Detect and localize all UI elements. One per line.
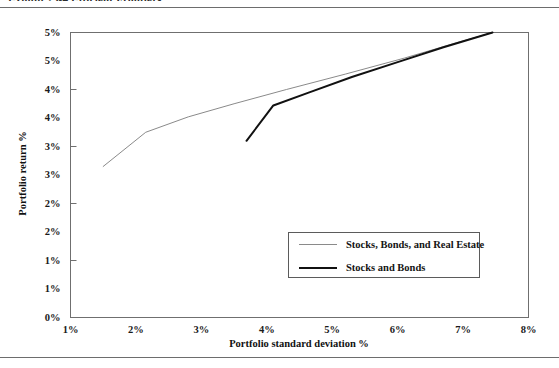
x-axis-tick-label: 7% — [448, 325, 478, 335]
legend-label: Stocks and Bonds — [346, 262, 425, 273]
legend-entry-stocks-bonds-real-estate: Stocks, Bonds, and Real Estate — [289, 233, 481, 256]
x-axis-title: Portfolio standard deviation % — [70, 338, 528, 349]
figure-caption: Exhibit 23-4 Efficient Frontiers — [8, 0, 162, 1]
efficient-frontier-chart: Portfolio return % Portfolio standard de… — [0, 8, 559, 357]
legend-line-icon-thick — [299, 267, 337, 269]
y-axis-tick-label: 2% — [27, 227, 61, 237]
y-axis-tick-label: 4% — [27, 113, 61, 123]
y-axis-tick-label: 0% — [27, 313, 61, 323]
y-axis-tick-label: 1% — [27, 284, 61, 294]
y-axis-tick-label: 5% — [27, 56, 61, 66]
x-axis-tick-label: 6% — [383, 325, 413, 335]
y-axis-tick-label: 3% — [27, 142, 61, 152]
series-line-stocks-bonds-real-estate — [103, 33, 492, 167]
y-axis-tick-label: 4% — [27, 85, 61, 95]
x-axis-tick-label: 4% — [252, 325, 282, 335]
y-axis-tick-label: 3% — [27, 170, 61, 180]
x-axis-tick-label: 8% — [514, 325, 544, 335]
y-axis-tick-label: 5% — [27, 28, 61, 38]
x-axis-tick-label: 1% — [56, 325, 86, 335]
x-axis-tick-label: 3% — [186, 325, 216, 335]
series-line-stocks-and-bonds — [247, 33, 493, 141]
chart-legend: Stocks, Bonds, and Real Estate Stocks an… — [288, 232, 480, 278]
plot-canvas — [0, 8, 559, 357]
y-axis-tick-label: 2% — [27, 199, 61, 209]
x-axis-tick-label: 5% — [317, 325, 347, 335]
y-axis-tick-label: 1% — [27, 256, 61, 266]
x-axis-tick-label: 2% — [121, 325, 151, 335]
legend-entry-stocks-and-bonds: Stocks and Bonds — [289, 256, 481, 279]
bottom-divider — [0, 357, 559, 358]
legend-line-icon-thin — [299, 244, 337, 245]
legend-label: Stocks, Bonds, and Real Estate — [346, 239, 484, 250]
